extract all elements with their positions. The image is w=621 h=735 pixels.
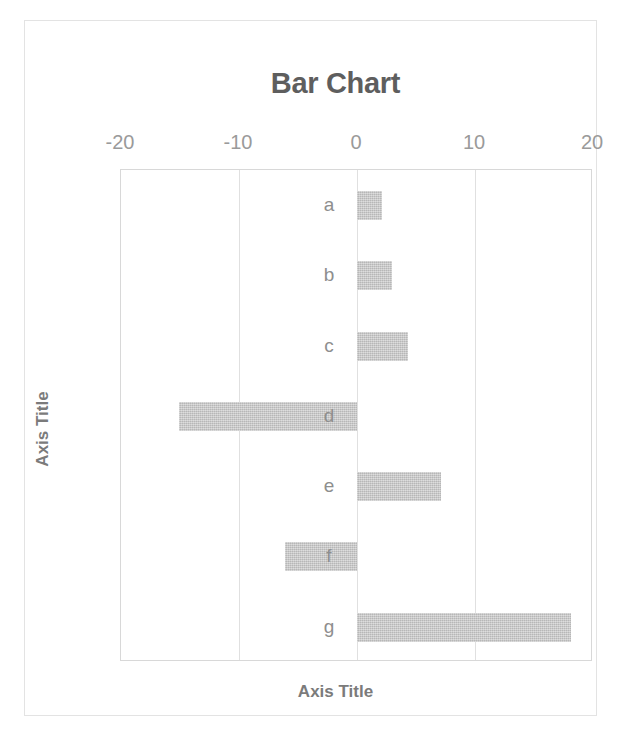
x-axis-tick-labels: -20-1001020 [25, 131, 621, 157]
bar-b[interactable] [357, 261, 392, 290]
bar-g[interactable] [357, 613, 571, 642]
x-tick-label-10: 10 [434, 131, 514, 154]
category-label-a: a [309, 193, 349, 217]
bar-c[interactable] [357, 332, 408, 361]
bar-row: g [121, 592, 591, 662]
x-tick-label-neg20: -20 [80, 131, 160, 154]
bar-e[interactable] [357, 472, 441, 501]
chart-page-frame: Bar Chart -20-1001020 abcdefg Axis Title… [24, 20, 597, 716]
plot-inner: abcdefg [121, 170, 591, 660]
bar-row: e [121, 451, 591, 521]
bar-a[interactable] [357, 191, 382, 220]
x-tick-label-20: 20 [552, 131, 621, 154]
category-label-b: b [309, 263, 349, 287]
x-axis-title: Axis Title [25, 682, 621, 702]
category-label-e: e [309, 474, 349, 498]
category-label-c: c [309, 334, 349, 358]
bar-row: d [121, 381, 591, 451]
bar-row: f [121, 521, 591, 591]
bar-row: c [121, 311, 591, 381]
bar-row: b [121, 240, 591, 310]
chart-title: Bar Chart [25, 67, 621, 100]
x-tick-label-neg10: -10 [198, 131, 278, 154]
category-label-d: d [309, 404, 349, 428]
category-label-g: g [309, 615, 349, 639]
category-label-f: f [309, 544, 349, 568]
x-tick-label-0: 0 [316, 131, 396, 154]
plot-area: abcdefg [120, 169, 592, 661]
y-axis-title: Axis Title [33, 299, 53, 559]
bar-row: a [121, 170, 591, 240]
